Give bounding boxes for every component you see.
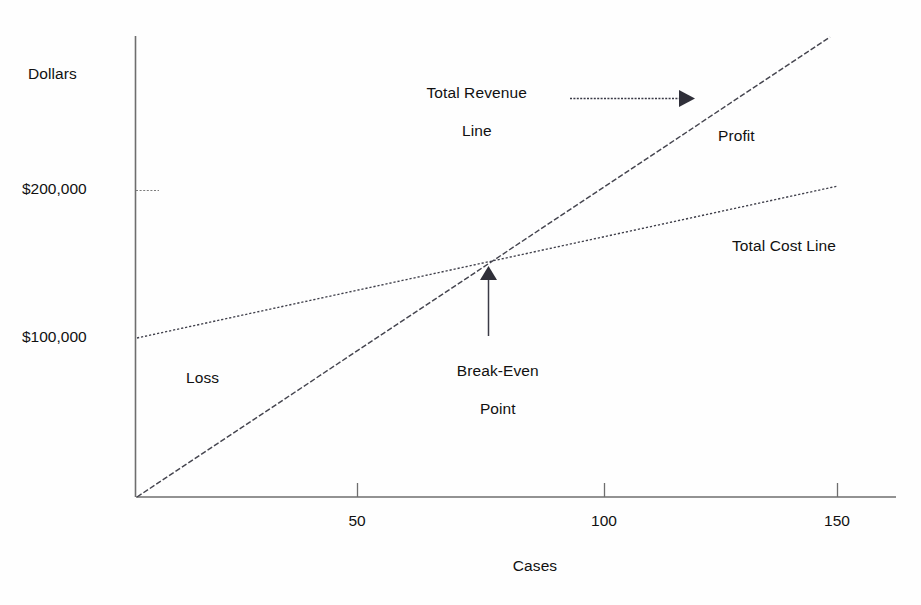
x-tick-label-50: 50 — [337, 512, 377, 530]
x-tick-label-100: 100 — [581, 512, 627, 530]
annotation-total-revenue-line: Total Revenue Line — [388, 64, 548, 159]
annotation-loss: Loss — [186, 368, 219, 387]
annotation-break-even-point: Break-Even Point — [424, 342, 554, 437]
annotation-break-even-point-line2: Point — [480, 400, 516, 417]
x-axis-title: Cases — [500, 556, 570, 575]
y-tick-label-200k: $200,000 — [22, 180, 87, 198]
annotation-break-even-point-line1: Break-Even — [457, 362, 539, 379]
y-axis-title: Dollars — [28, 64, 77, 83]
breakeven-pointer-arrowhead — [480, 266, 497, 280]
y-tick-label-100k: $100,000 — [22, 328, 87, 346]
annotation-total-revenue-line-line1: Total Revenue — [426, 84, 526, 101]
revenue-pointer-arrowhead — [679, 90, 695, 107]
annotation-total-revenue-line-line2: Line — [462, 122, 492, 139]
break-even-chart: Dollars Cases $200,000 $100,000 50 100 1… — [0, 0, 921, 605]
x-tick-label-150: 150 — [814, 512, 860, 530]
total-cost-line — [137, 186, 838, 338]
annotation-total-cost-line: Total Cost Line — [732, 236, 836, 255]
annotation-profit: Profit — [718, 126, 755, 145]
